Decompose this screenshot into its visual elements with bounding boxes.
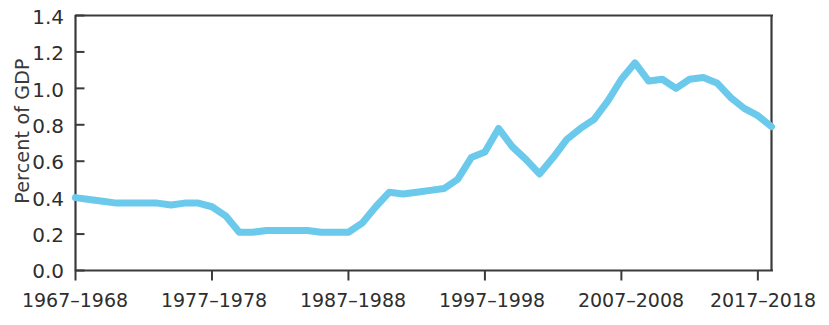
plot-area [0,0,829,325]
x-tick-label: 1967–1968 [22,289,128,311]
chart-figure: Percent of GDP 1.4 1.2 1.0 0.8 0.6 0.4 0… [0,0,829,325]
x-axis-tick-marks [76,271,758,281]
x-tick-label: 1987–1988 [300,289,406,311]
x-tick-label: 1997–1998 [439,289,545,311]
x-tick-label: 2017–2018 [710,289,816,311]
y-axis-tick-marks [76,16,85,271]
axis-spines [75,15,773,271]
x-tick-label: 2007–2008 [578,289,684,311]
x-tick-label: 1977–1978 [161,289,267,311]
data-line-series [76,63,772,232]
